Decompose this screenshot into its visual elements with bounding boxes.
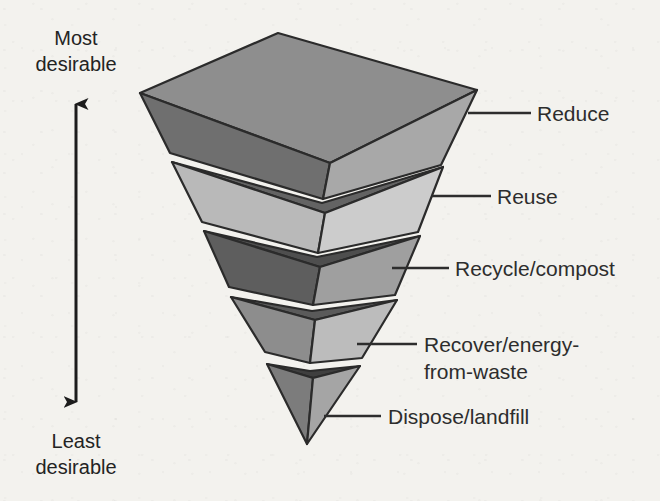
waste-hierarchy-diagram: Most desirable Least desirable: [0, 0, 660, 501]
most-desirable-label-line1: Most: [54, 27, 98, 49]
layer-dispose-left-face: [267, 364, 313, 444]
pyramid-layer-dispose-landfill[interactable]: [267, 364, 360, 444]
layer-dispose-right-face: [307, 366, 360, 444]
least-desirable-label-line1: Least: [52, 430, 101, 452]
most-desirable-label-line2: desirable: [35, 53, 116, 75]
pyramid-layer-recover-energy-from-waste[interactable]: [231, 297, 397, 363]
label-reduce: Reduce: [537, 102, 609, 125]
label-recover-energy-from-waste-line1: Recover/energy-: [424, 333, 579, 356]
figure-canvas: Most desirable Least desirable: [0, 0, 660, 501]
least-desirable-label-line2: desirable: [35, 456, 116, 478]
desirability-axis: Most desirable Least desirable: [35, 27, 116, 478]
label-dispose-landfill: Dispose/landfill: [388, 405, 529, 428]
label-recover-energy-from-waste-line2: from-waste: [424, 360, 528, 383]
label-reuse: Reuse: [497, 185, 558, 208]
label-recycle-compost: Recycle/compost: [455, 257, 615, 280]
